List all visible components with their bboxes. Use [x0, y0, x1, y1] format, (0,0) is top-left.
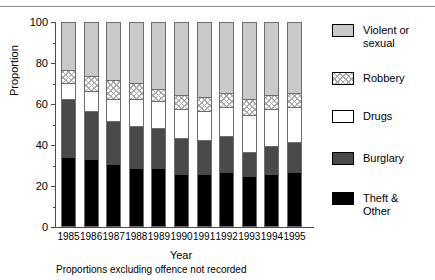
bar-1995[interactable] — [287, 22, 302, 227]
y-minor-tick-90 — [53, 43, 56, 44]
bar-segment-1990-theft-other[interactable] — [175, 175, 188, 226]
legend-label: Violent or sexual — [363, 24, 409, 49]
bar-segment-1988-robbery[interactable] — [130, 83, 143, 99]
bar-segment-1994-robbery[interactable] — [265, 95, 278, 109]
bar-segment-1985-burglary[interactable] — [62, 99, 75, 158]
bar-segment-1989-theft-other[interactable] — [152, 169, 165, 226]
bar-segment-1992-burglary[interactable] — [220, 136, 233, 173]
legend-swatch-solid-white — [332, 110, 354, 123]
bar-segment-1991-robbery[interactable] — [198, 97, 211, 111]
y-tick-label-0: 0 — [42, 222, 48, 233]
bar-segment-1987-theft-other[interactable] — [107, 165, 120, 227]
bar-segment-1987-violent-or-sexual[interactable] — [107, 22, 120, 80]
bar-segment-1993-drugs[interactable] — [243, 115, 256, 152]
bar-1987[interactable] — [106, 22, 121, 227]
bar-segment-1992-robbery[interactable] — [220, 93, 233, 107]
legend-item-burglary[interactable]: Burglary — [332, 152, 404, 165]
y-minor-tick-70 — [53, 84, 56, 85]
bar-segment-1988-theft-other[interactable] — [130, 169, 143, 226]
bar-segment-1992-violent-or-sexual[interactable] — [220, 22, 233, 93]
bar-segment-1993-theft-other[interactable] — [243, 177, 256, 226]
bar-segment-1988-drugs[interactable] — [130, 99, 143, 126]
bar-segment-1986-drugs[interactable] — [85, 91, 98, 112]
bar-segment-1987-drugs[interactable] — [107, 99, 120, 122]
bar-1993[interactable] — [242, 22, 257, 227]
legend-swatch-solid-dark-grey — [332, 152, 354, 165]
bar-segment-1994-burglary[interactable] — [265, 146, 278, 175]
y-tick-100 — [51, 22, 56, 23]
bar-segment-1992-drugs[interactable] — [220, 107, 233, 136]
bar-segment-1989-robbery[interactable] — [152, 89, 165, 101]
bar-segment-1987-burglary[interactable] — [107, 121, 120, 164]
y-tick-80 — [51, 63, 56, 64]
bar-segment-1995-theft-other[interactable] — [288, 173, 301, 226]
bar-segment-1993-robbery[interactable] — [243, 99, 256, 115]
y-axis-title: Proportion — [8, 45, 20, 96]
top-divider-rule — [0, 6, 435, 7]
bar-segment-1989-violent-or-sexual[interactable] — [152, 22, 165, 89]
bar-segment-1993-violent-or-sexual[interactable] — [243, 22, 256, 99]
bar-segment-1995-drugs[interactable] — [288, 107, 301, 142]
y-minor-tick-50 — [53, 125, 56, 126]
bar-segment-1985-drugs[interactable] — [62, 83, 75, 99]
bar-segment-1986-burglary[interactable] — [85, 111, 98, 160]
legend-label: Burglary — [363, 152, 404, 165]
bar-segment-1994-violent-or-sexual[interactable] — [265, 22, 278, 95]
bar-segment-1985-robbery[interactable] — [62, 70, 75, 82]
y-tick-label-40: 40 — [36, 140, 48, 151]
chart-footnote: Proportions excluding offence not record… — [56, 264, 247, 275]
legend-label: Robbery — [363, 72, 405, 85]
bar-1994[interactable] — [264, 22, 279, 227]
bar-1986[interactable] — [84, 22, 99, 227]
bar-1992[interactable] — [219, 22, 234, 227]
bar-segment-1991-violent-or-sexual[interactable] — [198, 22, 211, 97]
bar-segment-1995-violent-or-sexual[interactable] — [288, 22, 301, 93]
bar-1988[interactable] — [129, 22, 144, 227]
bar-segment-1987-robbery[interactable] — [107, 80, 120, 98]
bar-1985[interactable] — [61, 22, 76, 227]
bar-segment-1986-theft-other[interactable] — [85, 160, 98, 226]
plot-area: 020406080100 — [56, 22, 306, 227]
legend-label: Theft & Other — [363, 192, 398, 217]
bar-1989[interactable] — [151, 22, 166, 227]
legend-swatch-diagonal-hatch — [332, 72, 354, 85]
bar-segment-1991-burglary[interactable] — [198, 140, 211, 175]
legend-swatch-solid-light-grey — [332, 24, 354, 37]
bar-segment-1990-robbery[interactable] — [175, 95, 188, 109]
y-tick-40 — [51, 145, 56, 146]
bar-segment-1994-theft-other[interactable] — [265, 175, 278, 226]
bar-segment-1989-drugs[interactable] — [152, 101, 165, 128]
bar-segment-1990-drugs[interactable] — [175, 109, 188, 138]
x-tick-label-1995: 1995 — [279, 231, 311, 242]
bar-segment-1990-violent-or-sexual[interactable] — [175, 22, 188, 95]
bar-segment-1985-theft-other[interactable] — [62, 158, 75, 226]
y-tick-0 — [51, 227, 56, 228]
bar-segment-1986-violent-or-sexual[interactable] — [85, 22, 98, 76]
bar-segment-1994-drugs[interactable] — [265, 109, 278, 146]
y-tick-label-100: 100 — [30, 17, 48, 28]
bar-segment-1986-robbery[interactable] — [85, 76, 98, 90]
bar-segment-1993-burglary[interactable] — [243, 152, 256, 177]
y-tick-label-80: 80 — [36, 58, 48, 69]
legend-item-theft-other[interactable]: Theft & Other — [332, 192, 398, 217]
bar-segment-1991-drugs[interactable] — [198, 111, 211, 140]
legend-item-robbery[interactable]: Robbery — [332, 72, 405, 85]
x-axis-line — [55, 227, 314, 228]
legend-item-violent-or-sexual[interactable]: Violent or sexual — [332, 24, 409, 49]
y-tick-label-60: 60 — [36, 99, 48, 110]
bar-segment-1995-robbery[interactable] — [288, 93, 301, 107]
bar-segment-1990-burglary[interactable] — [175, 138, 188, 175]
bar-segment-1991-theft-other[interactable] — [198, 175, 211, 226]
legend-item-drugs[interactable]: Drugs — [332, 110, 392, 123]
y-minor-tick-10 — [53, 207, 56, 208]
bar-segment-1989-burglary[interactable] — [152, 128, 165, 169]
bar-1991[interactable] — [197, 22, 212, 227]
bar-segment-1992-theft-other[interactable] — [220, 173, 233, 226]
bar-1990[interactable] — [174, 22, 189, 227]
bar-segment-1985-violent-or-sexual[interactable] — [62, 22, 75, 70]
bar-segment-1995-burglary[interactable] — [288, 142, 301, 173]
y-minor-tick-30 — [53, 166, 56, 167]
bar-segment-1988-violent-or-sexual[interactable] — [130, 22, 143, 83]
legend-swatch-solid-black — [332, 192, 354, 205]
bar-segment-1988-burglary[interactable] — [130, 126, 143, 169]
